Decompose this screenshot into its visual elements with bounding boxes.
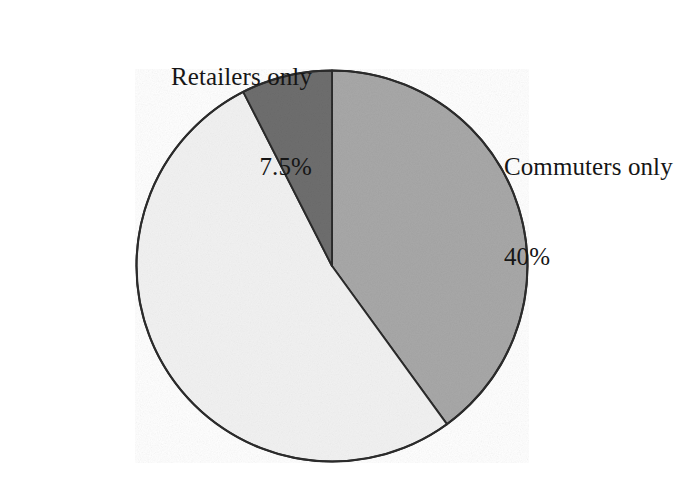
pie-label-commuters-only-value: 40%: [504, 242, 685, 272]
pie-label-both-commuters-and-retailers: Both commuters and retailers 52.5%: [4, 440, 236, 499]
pie-label-retailers-only-value: 7.5%: [122, 152, 312, 182]
pie-label-retailers-only-name: Retailers only: [122, 62, 312, 92]
pie-label-commuters-only-name: Commuters only: [504, 152, 685, 182]
pie-label-retailers-only: Retailers only 7.5%: [122, 2, 312, 242]
pie-label-commuters-only: Commuters only 40%: [504, 92, 685, 332]
pie-chart-figure: Retailers only 7.5% Commuters only 40% B…: [0, 0, 685, 499]
